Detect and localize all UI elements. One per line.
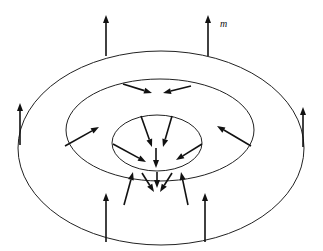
outer-ring — [18, 51, 304, 245]
inner-bottom-right-arrow-icon — [160, 173, 172, 192]
middle-bottom-left-arrow-icon — [124, 172, 134, 205]
middle-top-right-arrow-icon — [163, 86, 191, 94]
outer-bottom-right-arrow-icon — [202, 193, 208, 242]
inner-top-left-arrow-icon — [141, 116, 152, 147]
middle-bottom-right-arrow-icon — [180, 172, 188, 205]
middle-right-arrow-icon — [217, 126, 251, 146]
outer-top-right-arrow-icon — [205, 15, 211, 56]
m-vector-label: m — [220, 18, 227, 29]
inner-top-right-arrow-icon — [162, 116, 172, 147]
arrows — [17, 15, 306, 242]
outer-top-left-arrow-icon — [103, 15, 109, 56]
inner-bottom-left-arrow-icon — [142, 173, 154, 192]
middle-left-arrow-icon — [65, 127, 99, 146]
rings — [18, 51, 304, 245]
middle-top-left-arrow-icon — [123, 84, 152, 93]
inner-right-arrow-icon — [176, 144, 202, 160]
inner-center-arrow-icon — [153, 148, 159, 168]
inner-left-arrow-icon — [113, 144, 146, 162]
outer-bottom-left-arrow-icon — [103, 193, 109, 242]
magnetization-diagram: m — [0, 0, 323, 251]
inner-bottom-center-arrow-icon — [154, 172, 160, 188]
